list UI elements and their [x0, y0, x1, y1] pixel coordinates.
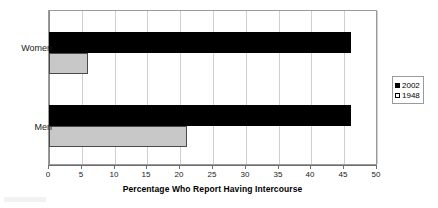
bar-women-2002: [49, 32, 351, 53]
bar-men-1948: [49, 126, 187, 147]
x-tick-label-20: 20: [169, 170, 189, 179]
x-tick-label-45: 45: [333, 170, 353, 179]
legend-swatch-filled-icon: [395, 83, 400, 88]
x-tick-label-15: 15: [136, 170, 156, 179]
legend-label-1948: 1948: [402, 91, 420, 100]
x-tick-20: [179, 165, 180, 169]
gridline-50: [377, 11, 378, 164]
legend-swatch-outline-icon: [395, 93, 400, 98]
legend-label-2002: 2002: [402, 81, 420, 90]
x-tick-15: [146, 165, 147, 169]
legend-item-1948[interactable]: 1948: [395, 90, 420, 100]
category-label-women: Women: [21, 43, 52, 53]
category-label-men: Men: [34, 122, 52, 132]
scan-artifact: [4, 197, 46, 202]
x-tick-50: [376, 165, 377, 169]
x-tick-30: [245, 165, 246, 169]
x-tick-5: [81, 165, 82, 169]
bar-women-1948: [49, 53, 88, 74]
x-tick-label-30: 30: [235, 170, 255, 179]
x-tick-0: [48, 165, 49, 169]
x-tick-label-40: 40: [300, 170, 320, 179]
x-tick-10: [114, 165, 115, 169]
x-tick-label-10: 10: [104, 170, 124, 179]
x-tick-label-35: 35: [268, 170, 288, 179]
x-tick-40: [310, 165, 311, 169]
x-tick-label-5: 5: [71, 170, 91, 179]
x-axis-title: Percentage Who Report Having Intercourse: [48, 184, 377, 194]
x-tick-label-50: 50: [366, 170, 386, 179]
legend-item-2002[interactable]: 2002: [395, 80, 420, 90]
bar-men-2002: [49, 105, 351, 126]
x-tick-45: [343, 165, 344, 169]
bar-chart-figure: Women Men 05101520253035404550 Percentag…: [0, 0, 438, 208]
x-tick-label-0: 0: [38, 170, 58, 179]
legend: 2002 1948: [392, 76, 424, 104]
x-tick-label-25: 25: [202, 170, 222, 179]
x-tick-35: [278, 165, 279, 169]
x-tick-25: [212, 165, 213, 169]
